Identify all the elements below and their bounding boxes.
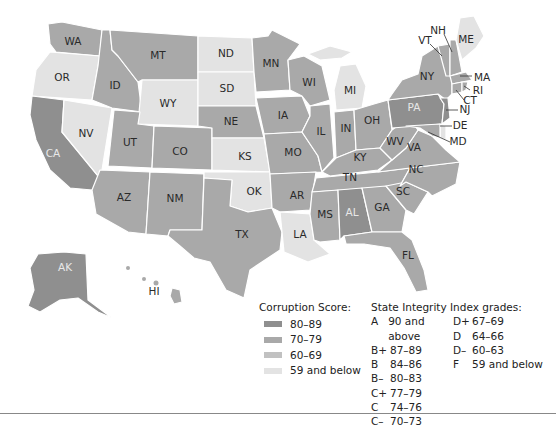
- label-ar: AR: [290, 189, 304, 201]
- label-ia: IA: [278, 109, 289, 121]
- label-or: OR: [54, 71, 70, 83]
- grade-letter: B: [371, 357, 390, 371]
- legend-swatch: [264, 368, 282, 374]
- grade-letter: D: [453, 329, 472, 343]
- label-pa: PA: [408, 101, 422, 113]
- grade-letter: A: [371, 314, 388, 343]
- label-wy: WY: [160, 97, 177, 109]
- label-fl: FL: [402, 249, 414, 261]
- label-ks: KS: [238, 150, 252, 162]
- label-nv: NV: [78, 127, 94, 139]
- label-ak: AK: [58, 261, 73, 273]
- label-ut: UT: [123, 136, 138, 148]
- grades-title: State Integrity Index grades:: [371, 300, 543, 314]
- label-tn: TN: [342, 171, 357, 183]
- grade-letter: B+: [371, 343, 390, 357]
- grade-range: 84–86: [390, 357, 422, 371]
- grade-row: A90 and above: [371, 314, 453, 343]
- label-il: IL: [317, 125, 326, 137]
- label-de: DE: [453, 119, 468, 131]
- grade-range: 90 and above: [388, 314, 453, 343]
- grade-row: B–80–83: [371, 371, 453, 385]
- legend-item: 80–89: [259, 317, 361, 333]
- legend-swatch: [264, 321, 282, 327]
- label-va: VA: [407, 141, 422, 153]
- grade-range: 60–63: [472, 343, 504, 357]
- grade-row: C–70–73: [371, 414, 453, 426]
- grade-range: 87–89: [390, 343, 422, 357]
- grade-range: 77–79: [390, 386, 422, 400]
- bottom-divider: [0, 413, 556, 414]
- label-ne: NE: [224, 115, 239, 127]
- label-ca: CA: [46, 147, 61, 159]
- label-nj: NJ: [460, 103, 471, 115]
- legend-swatch: [264, 337, 282, 343]
- label-co: CO: [172, 145, 188, 157]
- label-me: ME: [458, 33, 474, 45]
- label-md: MD: [449, 135, 466, 147]
- legend-item: 59 and below: [259, 363, 361, 379]
- label-ma: MA: [474, 71, 491, 83]
- grade-letter: B–: [371, 371, 390, 385]
- grades-legend: State Integrity Index grades: A90 and ab…: [371, 300, 543, 426]
- grade-row: C+77–79: [371, 386, 453, 400]
- label-nm: NM: [167, 192, 184, 204]
- label-hi: HI: [149, 285, 160, 297]
- grade-range: 64–66: [472, 329, 504, 343]
- legend-item: 60–69: [259, 348, 361, 364]
- label-id: ID: [109, 79, 120, 91]
- label-wa: WA: [65, 35, 83, 47]
- label-oh: OH: [364, 114, 380, 126]
- legend-swatch: [264, 352, 282, 358]
- grade-range: 70–73: [390, 414, 422, 426]
- grade-letter: D–: [453, 343, 472, 357]
- state-hi: [170, 288, 182, 304]
- label-wv: WV: [386, 135, 404, 147]
- label-ok: OK: [246, 185, 262, 197]
- state-ct: [452, 82, 462, 94]
- label-nc: NC: [408, 163, 423, 175]
- state-fl: [344, 232, 428, 292]
- label-mt: MT: [150, 49, 166, 61]
- state-mi-up: [308, 46, 352, 60]
- label-sd: SD: [220, 82, 235, 94]
- label-ny: NY: [420, 70, 435, 82]
- legend-item: 70–79: [259, 332, 361, 348]
- grade-range: 59 and below: [472, 357, 543, 371]
- label-mn: MN: [263, 57, 280, 69]
- label-tx: TX: [234, 228, 249, 240]
- label-wi: WI: [302, 76, 315, 88]
- grade-letter: C+: [371, 386, 390, 400]
- grade-letter: F: [453, 357, 472, 371]
- legend-title: Corruption Score:: [259, 300, 361, 316]
- grade-range: 67–69: [472, 314, 504, 328]
- grade-letter: D+: [453, 314, 472, 328]
- label-nd: ND: [218, 47, 234, 59]
- grade-row: D64–66: [453, 329, 543, 343]
- legend-label: 59 and below: [290, 363, 361, 379]
- legend-label: 70–79: [290, 332, 322, 348]
- grade-range: 80–83: [390, 371, 422, 385]
- grade-row: B84–86: [371, 357, 453, 371]
- grade-row: B+87–89: [371, 343, 453, 357]
- corruption-score-legend: Corruption Score: 80–89 70–79 60–69 59 a…: [259, 300, 361, 379]
- legend-label: 80–89: [290, 317, 322, 333]
- label-ga: GA: [374, 201, 390, 213]
- label-al: AL: [345, 206, 358, 218]
- state-hi-island: [126, 266, 130, 270]
- grade-row: D–60–63: [453, 343, 543, 357]
- label-sc: SC: [396, 185, 410, 197]
- label-mi: MI: [344, 84, 356, 96]
- label-nh: NH: [430, 24, 446, 36]
- label-ky: KY: [354, 151, 368, 163]
- label-in: IN: [341, 122, 352, 134]
- grade-letter: C–: [371, 414, 390, 426]
- label-la: LA: [293, 228, 307, 240]
- label-az: AZ: [117, 191, 131, 203]
- grade-row: D+67–69: [453, 314, 543, 328]
- state-nm: [146, 172, 204, 236]
- label-ms: MS: [317, 208, 333, 220]
- state-hi-island: [142, 277, 146, 281]
- label-mo: MO: [284, 146, 301, 158]
- grade-row: F59 and below: [453, 357, 543, 371]
